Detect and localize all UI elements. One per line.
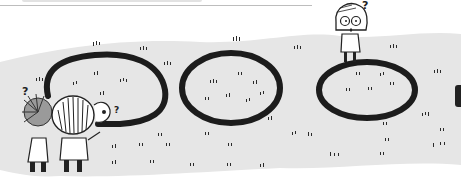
question-mark-left: ?	[22, 86, 28, 97]
scene-drawing	[0, 0, 461, 183]
question-mark-girl: ?	[362, 0, 368, 11]
page-edge-mark	[455, 85, 461, 107]
question-mark-peeking: ?	[114, 106, 119, 115]
illustration: ? ? ?	[0, 0, 461, 183]
